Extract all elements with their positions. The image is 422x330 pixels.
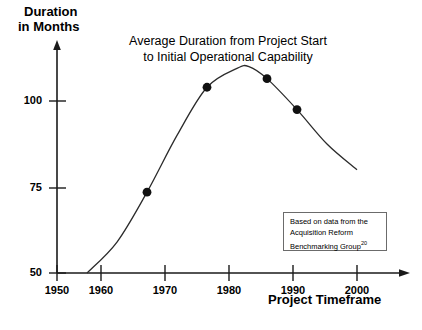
y-axis-title-line1: Duration (18, 4, 79, 19)
x-tick-label-1980: 1980 (207, 284, 251, 296)
source-note-box: Based on data from the Acquisition Refor… (283, 212, 387, 251)
x-tick-label-1950: 1950 (35, 284, 79, 296)
source-note-line3-text: Benchmarking Group (290, 242, 361, 251)
x-tick-label-1970: 1970 (143, 284, 187, 296)
data-point-markers (143, 74, 302, 196)
x-tick-label-1990: 1990 (271, 284, 315, 296)
y-tick-label-50: 50 (8, 266, 42, 278)
source-note-line1: Based on data from the (290, 217, 381, 228)
chart-title: Average Duration from Project Start to I… (108, 33, 348, 65)
source-note-line3: Benchmarking Group20 (290, 238, 381, 252)
data-point-marker (143, 188, 152, 197)
x-tick-label-1960: 1960 (79, 284, 123, 296)
chart-container: Duration in Months Project Timeframe Ave… (0, 0, 422, 330)
y-axis (53, 40, 61, 273)
y-axis-title-line2: in Months (18, 19, 79, 34)
x-tick-label-2000: 2000 (335, 284, 379, 296)
y-axis-title: Duration in Months (18, 4, 79, 34)
source-note-superscript: 20 (361, 240, 367, 246)
y-tick-label-100: 100 (8, 94, 42, 106)
data-point-marker (263, 74, 272, 83)
chart-title-line1: Average Duration from Project Start (108, 33, 348, 49)
chart-title-line2: to Initial Operational Capability (108, 49, 348, 65)
data-point-marker (203, 83, 212, 92)
source-note-line2: Acquisition Reform (290, 228, 381, 239)
data-point-marker (293, 105, 302, 114)
y-tick-label-75: 75 (8, 181, 42, 193)
